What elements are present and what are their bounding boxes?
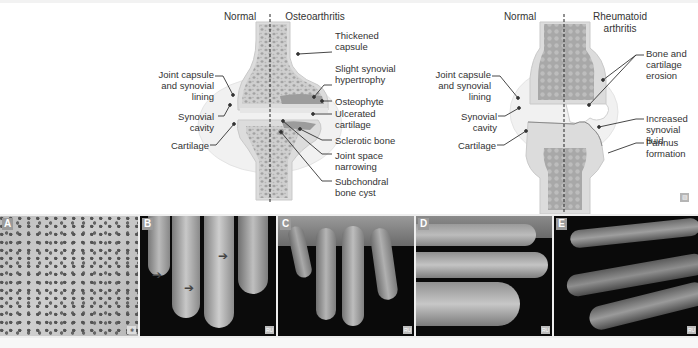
credit-icon: ✱ <box>127 326 136 334</box>
oa-label-osteophyte: Osteophyte <box>335 96 384 107</box>
oa-heading-osteoarthritis: Osteoarthritis <box>275 11 355 23</box>
photo-a-histology: A ✱ <box>0 216 138 336</box>
bottom-margin <box>0 338 698 348</box>
photo-label: B <box>142 218 153 230</box>
arrow-icon: ➔ <box>152 268 162 282</box>
rheumatoid-arthritis-joint <box>510 14 618 214</box>
osteoarthritis-joint <box>198 14 342 204</box>
credit-icon: RU <box>541 326 550 334</box>
photo-c-hand: C RU <box>278 216 414 336</box>
oa-label-joint-space-narrowing: Joint space narrowing <box>335 150 383 172</box>
ra-heading-normal: Normal <box>490 11 550 23</box>
oa-label-ulcerated-cartilage: Ulcerated cartilage <box>335 108 376 130</box>
copyright-mark-icon: ▨ <box>680 193 689 202</box>
arrow-icon: ➔ <box>218 249 228 263</box>
ra-label-cartilage: Cartilage <box>425 140 496 151</box>
ra-label-synovial-cavity: Synovial cavity <box>425 111 497 133</box>
credit-icon: RU <box>403 326 412 334</box>
oa-heading-normal: Normal <box>210 11 270 23</box>
oa-label-cartilage: Cartilage <box>148 140 209 151</box>
photo-label: C <box>280 218 291 230</box>
credit-icon: RU <box>687 326 696 334</box>
ra-heading-rheumatoid: Rheumatoid arthritis <box>580 11 660 35</box>
oa-label-synovial-hypertrophy: Slight synovial hypertrophy <box>335 63 396 85</box>
ra-label-pannus-formation: Pannus formation <box>646 137 686 159</box>
arrow-icon: ➔ <box>184 281 194 295</box>
credit-icon: RU <box>265 326 274 334</box>
oa-label-joint-capsule: Joint capsule and synovial lining <box>148 69 214 102</box>
photo-e-dark-hand: E RU <box>554 216 698 336</box>
photo-label: A <box>2 218 13 230</box>
ra-label-joint-capsule: Joint capsule and synovial lining <box>425 69 491 102</box>
photo-label: E <box>556 218 567 230</box>
photo-label: D <box>418 218 429 230</box>
oa-label-subchondral-cyst: Subchondral bone cyst <box>335 176 388 198</box>
photo-d-hand-side: D RU <box>416 216 552 336</box>
oa-label-thickened-capsule: Thickened capsule <box>335 30 379 52</box>
oa-label-sclerotic-bone: Sclerotic bone <box>335 135 395 146</box>
ra-label-bone-cartilage-erosion: Bone and cartilage erosion <box>646 48 687 81</box>
oa-label-synovial-cavity: Synovial cavity <box>148 111 214 133</box>
photo-b-fingers: ➔ ➔ ➔ B RU <box>140 216 276 336</box>
